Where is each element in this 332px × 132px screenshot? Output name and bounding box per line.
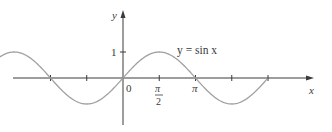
y-tick-label-1: 1 [111, 46, 117, 58]
x-axis-label: x [308, 84, 314, 96]
x-axis-arrow-icon [306, 76, 314, 81]
x-tick-label-pi: π [192, 82, 198, 94]
sine-plot: y x 1 0 π 2 π y = sin x [0, 0, 332, 132]
y-axis-arrow-icon [121, 10, 126, 18]
sine-graph: y x 1 0 π 2 π y = sin x [0, 0, 332, 132]
curve-label: y = sin x [177, 44, 217, 57]
origin-label: 0 [126, 82, 132, 94]
y-axis-label: y [111, 9, 117, 21]
x-tick-label-pi-half-denominator: 2 [156, 96, 161, 107]
x-tick-label-pi-half-numerator: π [155, 83, 161, 94]
